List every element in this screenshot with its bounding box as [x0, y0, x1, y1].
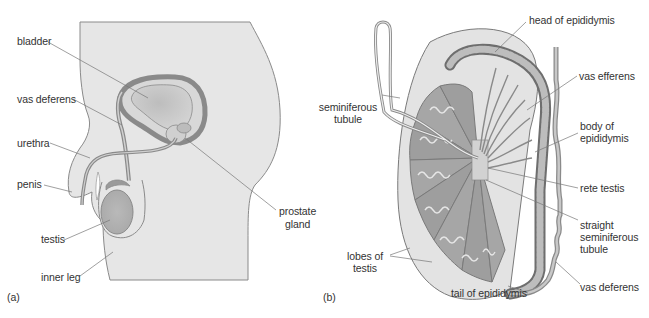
- label-tail-of-epididymis: tail of epididymis: [451, 287, 527, 299]
- label-prostate-gland-line2: gland: [285, 218, 310, 230]
- label-straight-seminiferous-tubule-line3: tubule: [580, 243, 608, 255]
- label-inner-leg: inner leg: [41, 271, 80, 283]
- panel-b-tag: (b): [323, 291, 336, 303]
- label-straight-seminiferous-tubule-line2: seminiferous: [580, 231, 638, 243]
- figure-caption-cropped: [0, 312, 649, 318]
- label-head-of-epididymis: head of epididymis: [529, 14, 615, 26]
- label-vas-deferens: vas deferens: [17, 93, 76, 105]
- label-seminiferous-tubule-line1: seminiferous: [314, 101, 382, 113]
- label-straight-seminiferous-tubule-line1: straight: [580, 219, 614, 231]
- label-prostate-gland-line1: prostate: [279, 205, 316, 217]
- label-vas-efferens: vas efferens: [579, 70, 635, 82]
- testis-shape: [101, 190, 133, 234]
- label-lobes-of-testis-line1: lobes of: [340, 250, 390, 262]
- label-body-of-epididymis-line2: epididymis: [580, 132, 629, 144]
- label-bladder: bladder: [17, 35, 51, 47]
- label-lobes-of-testis-line2: testis: [340, 262, 390, 274]
- anatomy-figure: bladder vas deferens urethra penis testi…: [0, 0, 649, 318]
- label-vas-deferens-b: vas deferens: [580, 281, 639, 293]
- label-rete-testis: rete testis: [580, 182, 624, 194]
- label-seminiferous-tubule-line2: tubule: [314, 113, 382, 125]
- label-testis: testis: [41, 233, 65, 245]
- panel-a-tag: (a): [7, 291, 20, 303]
- label-urethra: urethra: [17, 137, 50, 149]
- label-body-of-epididymis-line1: body of: [580, 120, 614, 132]
- diagram-svg: [0, 0, 649, 318]
- body-silhouette: [68, 22, 280, 280]
- label-penis: penis: [17, 178, 42, 190]
